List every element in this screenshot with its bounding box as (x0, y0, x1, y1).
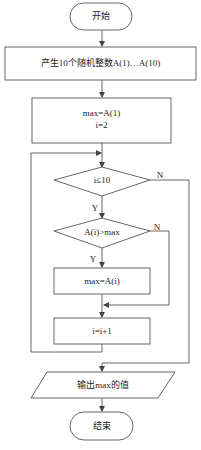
loop-condition-no-label: N (155, 170, 165, 181)
start-label: 开始 (70, 11, 132, 22)
assign-label: max=A(i) (54, 276, 150, 287)
compare-condition-yes-label: Y (88, 254, 98, 265)
loop-condition-yes-label: Y (90, 203, 100, 214)
compare-condition-no-label: N (152, 222, 162, 233)
compare-condition-label: A(i)>max (54, 227, 150, 238)
generate-label: 产生10个随机整数A(1)…A(10) (5, 58, 196, 69)
init-line2-label: i=2 (32, 120, 171, 131)
end-label: 结束 (70, 421, 133, 432)
increment-label: i=i+1 (54, 326, 150, 337)
init-line1-label: max=A(1) (32, 108, 171, 119)
output-label: 输出max的值 (31, 380, 175, 391)
loop-condition-label: i≤10 (54, 175, 150, 186)
